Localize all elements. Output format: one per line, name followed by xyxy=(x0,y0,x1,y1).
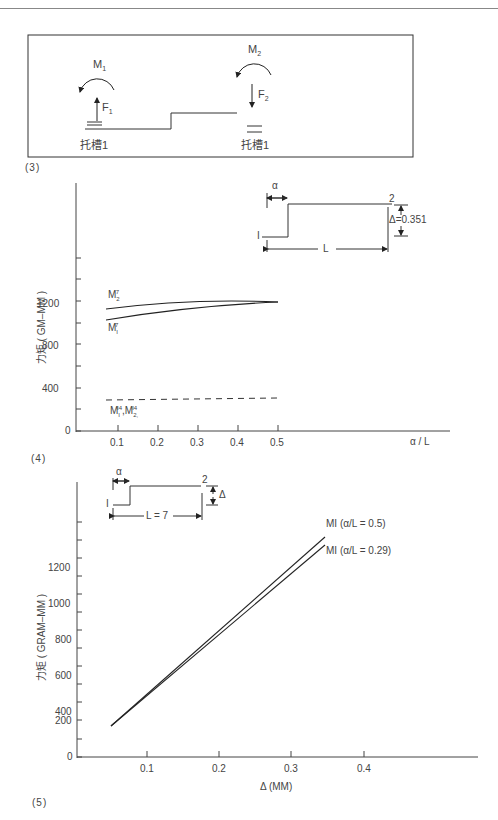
x-tick-0.4: 0.4 xyxy=(357,763,371,774)
y-axis-label: 力矩 ( GM–MM ) xyxy=(33,273,48,383)
y-tick-0: 0 xyxy=(65,425,71,436)
y-tick-200: 200 xyxy=(55,715,72,726)
y-axis-label: 力矩 ( GRAM–MM ) xyxy=(33,578,48,698)
inset-delta: Δ xyxy=(219,489,226,500)
inset-point-1: I xyxy=(106,498,109,509)
figure-canvas xyxy=(0,0,498,820)
figure4-inset-diagram xyxy=(262,193,408,252)
y-tick-400: 400 xyxy=(42,383,59,394)
inset-length: L xyxy=(323,243,329,254)
y-tick-1200: 1200 xyxy=(48,562,70,573)
x-tick-0.1: 0.1 xyxy=(110,437,124,448)
inset-alpha: α xyxy=(272,180,278,191)
inset-delta: Δ=0.351 xyxy=(389,214,427,225)
inset-point-2: 2 xyxy=(202,474,208,485)
support-right-label: 托槽1 xyxy=(241,136,269,152)
x-tick-0.4: 0.4 xyxy=(230,437,244,448)
moment1-label: M1 xyxy=(93,58,106,72)
x-tick-0.2: 0.2 xyxy=(212,763,226,774)
moment2-label: M2 xyxy=(248,43,261,57)
x-tick-0.5: 0.5 xyxy=(270,437,284,448)
y-tick-0: 0 xyxy=(67,751,73,762)
x-tick-0.2: 0.2 xyxy=(150,437,164,448)
curve-label-alpha-0.5: MI (α/L = 0.5) xyxy=(326,518,386,529)
curve-label-m-14: MII4,M2,I4 xyxy=(110,405,137,418)
curve-label-m2-7: M27 xyxy=(108,289,119,302)
x-axis-label: α / L xyxy=(410,436,430,447)
support-left-label: 托槽1 xyxy=(80,136,108,152)
y-tick-800: 800 xyxy=(55,634,72,645)
inset-point-2: 2 xyxy=(389,193,395,204)
figure5-caption: (5) xyxy=(32,797,47,808)
figure3-caption: (3) xyxy=(25,162,40,173)
curve-label-m1-7: MI7 xyxy=(108,322,118,335)
x-tick-0.3: 0.3 xyxy=(284,763,298,774)
inset-alpha: α xyxy=(116,466,122,477)
x-axis-label: Δ (MM) xyxy=(260,781,292,792)
x-tick-0.3: 0.3 xyxy=(190,437,204,448)
force1-label: F1 xyxy=(102,101,113,115)
force2-label: F2 xyxy=(258,88,269,102)
x-tick-0.1: 0.1 xyxy=(140,763,154,774)
inset-point-1: I xyxy=(257,230,260,241)
figure5-chart xyxy=(77,478,478,758)
inset-length: L = 7 xyxy=(146,510,168,521)
y-tick-1000: 1000 xyxy=(48,598,70,609)
y-tick-600: 600 xyxy=(55,670,72,681)
curve-label-alpha-0.29: MI (α/L = 0.29) xyxy=(326,545,391,556)
figure4-caption: (4) xyxy=(31,453,46,464)
